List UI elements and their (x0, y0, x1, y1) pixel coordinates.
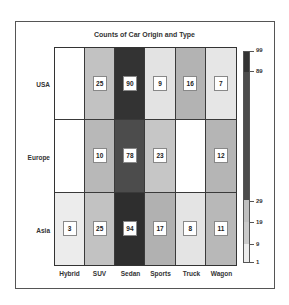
cell-usa-sedan: 90 (115, 48, 145, 120)
colorbar-segment (244, 52, 249, 72)
cell-europe-truck (176, 120, 206, 192)
colorbar-tick (250, 201, 254, 202)
value-label: 23 (153, 148, 167, 163)
colorbar-segment (244, 200, 249, 222)
colorbar-label: 19 (256, 219, 263, 226)
value-label: 3 (63, 221, 77, 236)
chart-title: Counts of Car Origin and Type (0, 31, 289, 38)
cell-europe-hybrid (55, 120, 85, 192)
colorbar-label: 29 (256, 198, 263, 205)
col-label-truck: Truck (176, 270, 207, 277)
value-label: 8 (183, 221, 197, 236)
cell-usa-suv: 25 (85, 48, 115, 120)
cell-usa-wagon: 7 (206, 48, 236, 120)
colorbar-segment (244, 72, 249, 200)
cell-asia-truck: 8 (176, 193, 206, 265)
value-label: 25 (93, 76, 107, 91)
row-label-asia: Asia (10, 227, 50, 234)
heatmap-grid: 25 90 9 16 7 10 78 23 12 3 25 94 17 8 11 (54, 47, 237, 266)
col-label-wagon: Wagon (206, 270, 237, 277)
cell-usa-hybrid (55, 48, 85, 120)
col-label-suv: SUV (84, 270, 115, 277)
value-label: 9 (153, 76, 167, 91)
value-label: 25 (93, 221, 107, 236)
cell-europe-sedan: 78 (115, 120, 145, 192)
value-label: 90 (123, 76, 137, 91)
colorbar-label-min: 1 (256, 259, 259, 266)
cell-asia-wagon: 11 (206, 193, 236, 265)
colorbar-tick (250, 244, 254, 245)
colorbar-label-max: 99 (256, 47, 263, 54)
colorbar-label: 89 (256, 68, 263, 75)
value-label: 11 (214, 221, 228, 236)
value-label: 94 (123, 221, 137, 236)
value-label: 12 (214, 148, 228, 163)
colorbar-segment (244, 244, 249, 262)
cell-usa-sports: 9 (145, 48, 175, 120)
cell-asia-sedan: 94 (115, 193, 145, 265)
colorbar-tick (250, 222, 254, 223)
value-label: 78 (123, 148, 137, 163)
colorbar-tick (250, 262, 254, 263)
colorbar-tick (250, 51, 254, 52)
col-label-hybrid: Hybrid (54, 270, 85, 277)
colorbar-segment (244, 222, 249, 244)
row-label-usa: USA (10, 81, 50, 88)
value-label: 16 (183, 76, 197, 91)
row-label-europe: Europe (10, 154, 50, 161)
col-label-sports: Sports (145, 270, 176, 277)
value-label: 7 (214, 76, 228, 91)
cell-asia-hybrid: 3 (55, 193, 85, 265)
colorbar (243, 51, 250, 263)
colorbar-label: 9 (256, 241, 259, 248)
cell-asia-sports: 17 (145, 193, 175, 265)
value-label: 10 (93, 148, 107, 163)
colorbar-tick (250, 71, 254, 72)
col-label-sedan: Sedan (115, 270, 146, 277)
cell-usa-truck: 16 (176, 48, 206, 120)
cell-asia-suv: 25 (85, 193, 115, 265)
cell-europe-wagon: 12 (206, 120, 236, 192)
value-label: 17 (153, 221, 167, 236)
cell-europe-suv: 10 (85, 120, 115, 192)
cell-europe-sports: 23 (145, 120, 175, 192)
